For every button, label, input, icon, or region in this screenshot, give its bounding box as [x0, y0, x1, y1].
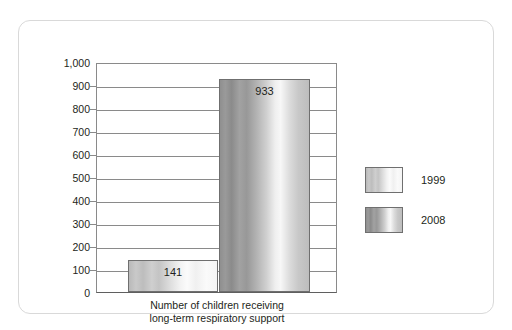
legend-swatch-1999-icon [365, 167, 403, 193]
legend-swatch-2008-icon [365, 207, 403, 233]
bar-2008[interactable]: 933 [219, 79, 310, 292]
y-tick-label: 300 [44, 219, 90, 229]
bar-value-label: 141 [129, 266, 217, 278]
legend: 1999 2008 [365, 167, 445, 247]
legend-item-2008[interactable]: 2008 [365, 207, 445, 233]
legend-label-2008: 2008 [421, 214, 445, 226]
x-axis-caption: Number of children receiving long-term r… [115, 299, 319, 325]
y-tick-label: 200 [44, 242, 90, 252]
plot-area: 141 933 [96, 63, 337, 293]
y-tick-label: 100 [44, 265, 90, 275]
legend-label-1999: 1999 [421, 174, 445, 186]
y-tick-label: 0 [44, 288, 90, 298]
y-tick-label: 600 [44, 150, 90, 160]
bar-value-label: 933 [220, 85, 309, 97]
y-tick-label: 800 [44, 104, 90, 114]
figure-frame: 1,000 900 800 700 600 500 400 300 200 10… [18, 20, 494, 314]
y-axis-tick-labels: 1,000 900 800 700 600 500 400 300 200 10… [42, 63, 90, 293]
y-tick-label: 1,000 [44, 58, 90, 68]
y-tick-label: 900 [44, 81, 90, 91]
y-tick-label: 400 [44, 196, 90, 206]
x-axis-caption-line1: Number of children receiving [115, 299, 319, 312]
bar-1999[interactable]: 141 [128, 260, 218, 292]
legend-item-1999[interactable]: 1999 [365, 167, 445, 193]
x-axis-caption-line2: long-term respiratory support [115, 312, 319, 325]
y-tick-label: 700 [44, 127, 90, 137]
y-tick-label: 500 [44, 173, 90, 183]
